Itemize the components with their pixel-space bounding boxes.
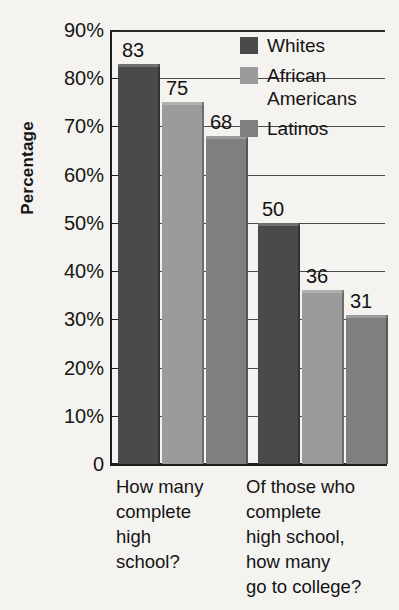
bar-top-highlight xyxy=(162,102,204,105)
bar-side-shadow xyxy=(298,223,300,464)
bar-fill xyxy=(302,290,344,464)
y-tick-label: 30% xyxy=(20,309,104,329)
bar-value-label: 68 xyxy=(210,112,232,132)
bar-side-shadow xyxy=(158,64,160,464)
bar-value-label: 36 xyxy=(306,266,328,286)
bar xyxy=(162,102,204,464)
bar-fill xyxy=(162,102,204,464)
bar-value-label: 75 xyxy=(166,78,188,98)
bar xyxy=(118,64,160,464)
y-tick-label: 10% xyxy=(20,406,104,426)
bar xyxy=(206,136,248,464)
bar-fill xyxy=(258,223,300,464)
bar-fill xyxy=(118,64,160,464)
bar-side-shadow xyxy=(386,315,388,464)
bar-value-label: 83 xyxy=(122,40,144,60)
bar xyxy=(258,223,300,464)
y-tick-label: 90% xyxy=(20,20,104,40)
y-tick-label: 50% xyxy=(20,213,104,233)
bar-fill xyxy=(206,136,248,464)
legend-swatch-icon xyxy=(240,37,258,54)
bar-value-label: 50 xyxy=(262,199,284,219)
bar-side-shadow xyxy=(342,290,344,464)
y-axis-tick-labels: 90%80%70%60%50%40%30%20%10%0 xyxy=(20,0,104,610)
bar-value-label: 31 xyxy=(350,291,372,311)
y-tick-label: 0 xyxy=(20,454,104,474)
x-category-label: How many complete high school? xyxy=(116,474,246,574)
x-category-label: Of those who complete high school, how m… xyxy=(246,474,396,599)
y-tick-label: 20% xyxy=(20,358,104,378)
bar-chart: Percentage 90%80%70%60%50%40%30%20%10%0 … xyxy=(0,0,399,610)
legend-swatch-icon xyxy=(240,67,258,84)
x-axis-category-labels: How many complete high school?Of those w… xyxy=(110,474,395,604)
legend-label: Latinos xyxy=(267,117,328,140)
y-tick-label: 40% xyxy=(20,261,104,281)
bar xyxy=(346,315,388,464)
legend-item: Whites xyxy=(240,34,390,57)
y-tick-label: 60% xyxy=(20,165,104,185)
legend-swatch-icon xyxy=(240,120,258,137)
y-tick-label: 70% xyxy=(20,116,104,136)
legend-item: Latinos xyxy=(240,117,390,140)
legend: WhitesAfrican AmericansLatinos xyxy=(240,34,390,147)
bar-side-shadow xyxy=(246,136,248,464)
legend-item: African Americans xyxy=(240,64,390,110)
bar-top-highlight xyxy=(118,64,160,67)
bar xyxy=(302,290,344,464)
bar-top-highlight xyxy=(302,290,344,293)
bar-side-shadow xyxy=(202,102,204,464)
bar-top-highlight xyxy=(258,223,300,226)
bar-top-highlight xyxy=(346,315,388,318)
legend-label: Whites xyxy=(267,34,325,57)
y-tick-label: 80% xyxy=(20,68,104,88)
bar-fill xyxy=(346,315,388,464)
legend-label: African Americans xyxy=(267,64,357,110)
